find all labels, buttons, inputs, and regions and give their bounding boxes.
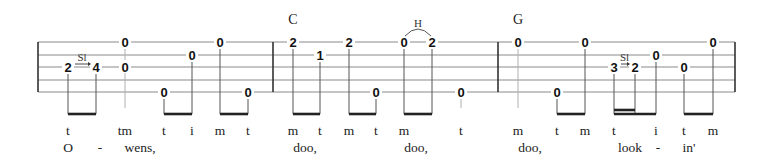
lyric-syllable: doo, <box>293 140 317 155</box>
fret-number: 0 <box>121 35 128 50</box>
lyric-syllable: doo, <box>404 140 428 155</box>
fingering-label: m <box>215 123 226 138</box>
lyric-syllable: in' <box>683 140 696 155</box>
lyric-syllable: - <box>98 140 103 155</box>
fret-number: 0 <box>372 85 379 100</box>
fingering-label: m <box>288 123 299 138</box>
fingering-label: t <box>459 123 463 138</box>
fingering-label: m <box>399 123 410 138</box>
chord-symbols: CG <box>288 12 523 27</box>
note-beams <box>68 110 713 114</box>
fret-number: 0 <box>188 48 195 63</box>
chord-symbol: G <box>513 12 523 27</box>
fingering-label: t <box>162 123 166 138</box>
fret-number: 2 <box>289 35 296 50</box>
slide-label: Sl <box>620 51 629 63</box>
fingering-label: t <box>318 123 322 138</box>
hammer-on-arc <box>405 29 431 36</box>
fret-number: 0 <box>680 60 687 75</box>
fingering-label: tm <box>118 123 133 138</box>
fret-number: 0 <box>581 35 588 50</box>
fret-number: 2 <box>64 60 71 75</box>
fret-number: 2 <box>631 60 638 75</box>
hammer-on-label: H <box>414 17 422 29</box>
fret-number: 4 <box>92 60 100 75</box>
fret-number: 0 <box>160 85 167 100</box>
note-stems <box>68 49 713 114</box>
fret-number: 0 <box>457 85 464 100</box>
fingering-label: t <box>682 123 686 138</box>
fret-number: 3 <box>610 60 617 75</box>
banjo-tablature: 24000000212002000032000 CG SlSlH ttmtimt… <box>0 0 777 168</box>
fret-number: 0 <box>400 35 407 50</box>
fret-number: 1 <box>316 48 323 63</box>
right-hand-fingerings: ttmtimtmtmtmtmtmtitm <box>66 123 719 138</box>
fingering-label: m <box>513 123 524 138</box>
lyric-syllable: wens, <box>124 140 155 155</box>
fingering-label: t <box>555 123 559 138</box>
fret-number: 2 <box>428 35 435 50</box>
slide-label: Sl <box>77 51 86 63</box>
fingering-label: t <box>66 123 70 138</box>
fingering-label: i <box>190 123 194 138</box>
lyrics: O-wens,doo,doo,doo,look-in' <box>63 140 695 155</box>
fingering-label: m <box>344 123 355 138</box>
lyric-syllable: look <box>618 140 642 155</box>
lyric-syllable: doo, <box>518 140 542 155</box>
fret-number: 0 <box>709 35 716 50</box>
lyric-syllable: O <box>63 140 73 155</box>
chord-symbol: C <box>288 12 297 27</box>
fret-number: 0 <box>216 35 223 50</box>
fingering-label: m <box>708 123 719 138</box>
fret-number: 0 <box>244 85 251 100</box>
fret-number: 0 <box>553 85 560 100</box>
lyric-syllable: - <box>656 140 661 155</box>
fret-number: 0 <box>514 35 521 50</box>
fingering-label: t <box>612 123 616 138</box>
fret-number: 2 <box>345 35 352 50</box>
fret-number: 0 <box>652 48 659 63</box>
fingering-label: t <box>246 123 250 138</box>
fingering-label: t <box>374 123 378 138</box>
fret-number: 0 <box>121 60 128 75</box>
fingering-label: i <box>654 123 658 138</box>
fingering-label: m <box>580 123 591 138</box>
